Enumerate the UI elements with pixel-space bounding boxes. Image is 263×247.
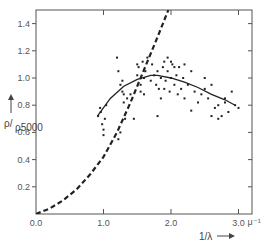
data-point — [158, 88, 160, 90]
tick-labels: 0.01.02.03.0μ⁻¹0.20.40.60.81.01.21.4 — [17, 19, 260, 228]
data-point — [182, 77, 184, 79]
data-point — [136, 74, 138, 76]
data-point — [194, 91, 196, 93]
data-point — [160, 97, 162, 99]
data-point — [190, 70, 192, 72]
data-point — [140, 91, 142, 93]
data-point — [238, 107, 240, 109]
data-point — [117, 70, 119, 72]
data-point — [217, 104, 219, 106]
data-point — [175, 74, 177, 76]
data-point — [160, 77, 162, 79]
x-arrowhead-icon — [229, 233, 235, 239]
data-point — [104, 118, 106, 120]
data-point — [136, 63, 138, 65]
axis-ticks — [32, 10, 252, 214]
data-point — [184, 97, 186, 99]
data-point — [130, 93, 132, 95]
data-point — [184, 63, 186, 65]
series-layer — [36, 10, 240, 214]
data-point — [121, 91, 123, 93]
data-point — [165, 80, 167, 82]
y-axis-label: ρ/ — [4, 118, 13, 129]
data-point — [211, 84, 213, 86]
y-tick-label: 0.8 — [17, 100, 30, 110]
x-tick-label: 2.0 — [165, 218, 178, 228]
y-arrowhead-icon — [8, 94, 14, 100]
data-point — [178, 66, 180, 68]
chart: 0.01.02.03.0μ⁻¹0.20.40.60.81.01.21.4 ρ/ρ… — [0, 0, 263, 247]
data-point — [177, 93, 179, 95]
data-point — [121, 80, 123, 82]
data-point — [169, 91, 171, 93]
data-point — [143, 93, 145, 95]
data-point — [171, 63, 173, 65]
theoretical-curve — [36, 10, 168, 214]
data-point — [140, 84, 142, 86]
data-point — [221, 115, 223, 117]
y-tick-label: 0.4 — [17, 155, 30, 165]
data-point — [211, 115, 213, 117]
data-point — [167, 70, 169, 72]
data-point — [119, 84, 121, 86]
data-point — [103, 129, 105, 131]
data-point — [116, 57, 118, 59]
data-point — [173, 84, 175, 86]
y-tick-label: 0.2 — [17, 182, 30, 192]
data-point — [217, 118, 219, 120]
data-point — [204, 77, 206, 79]
data-point — [142, 61, 144, 63]
data-point — [117, 138, 119, 140]
data-point — [126, 97, 128, 99]
data-point — [138, 66, 140, 68]
data-point — [157, 115, 159, 117]
data-point — [170, 61, 172, 63]
plot-frame — [36, 10, 252, 214]
data-point — [162, 66, 164, 68]
data-point — [150, 80, 152, 82]
data-point — [163, 61, 165, 63]
data-point — [155, 84, 157, 86]
data-point — [180, 88, 182, 90]
y-tick-label: 1.0 — [17, 73, 30, 83]
data-point — [123, 93, 125, 95]
x-unit-label: μ⁻¹ — [248, 217, 261, 227]
data-point — [157, 70, 159, 72]
data-point — [101, 123, 103, 125]
y-tick-label: 1.2 — [17, 46, 30, 56]
data-point — [204, 88, 206, 90]
data-point — [227, 111, 229, 113]
data-point — [167, 57, 169, 59]
data-point — [146, 57, 148, 59]
data-point — [124, 118, 126, 120]
data-point — [103, 134, 105, 136]
data-point — [99, 107, 101, 109]
data-point — [163, 88, 165, 90]
data-point — [123, 101, 125, 103]
data-point — [214, 107, 216, 109]
y-axis-label-sub: ρ5000 — [15, 122, 43, 133]
data-point — [151, 63, 153, 65]
data-point — [197, 101, 199, 103]
data-point — [119, 131, 121, 133]
x-tick-label: 1.0 — [97, 218, 110, 228]
data-point — [207, 97, 209, 99]
data-point — [190, 110, 192, 112]
data-point — [224, 101, 226, 103]
x-axis-label: 1/λ — [199, 231, 212, 242]
plot-border — [36, 10, 252, 214]
data-point — [231, 91, 233, 93]
x-tick-label: 3.0 — [232, 218, 245, 228]
x-tick-label: 0.0 — [30, 218, 43, 228]
y-tick-label: 1.4 — [17, 19, 30, 29]
data-point — [173, 66, 175, 68]
data-point — [200, 93, 202, 95]
data-point — [133, 118, 135, 120]
